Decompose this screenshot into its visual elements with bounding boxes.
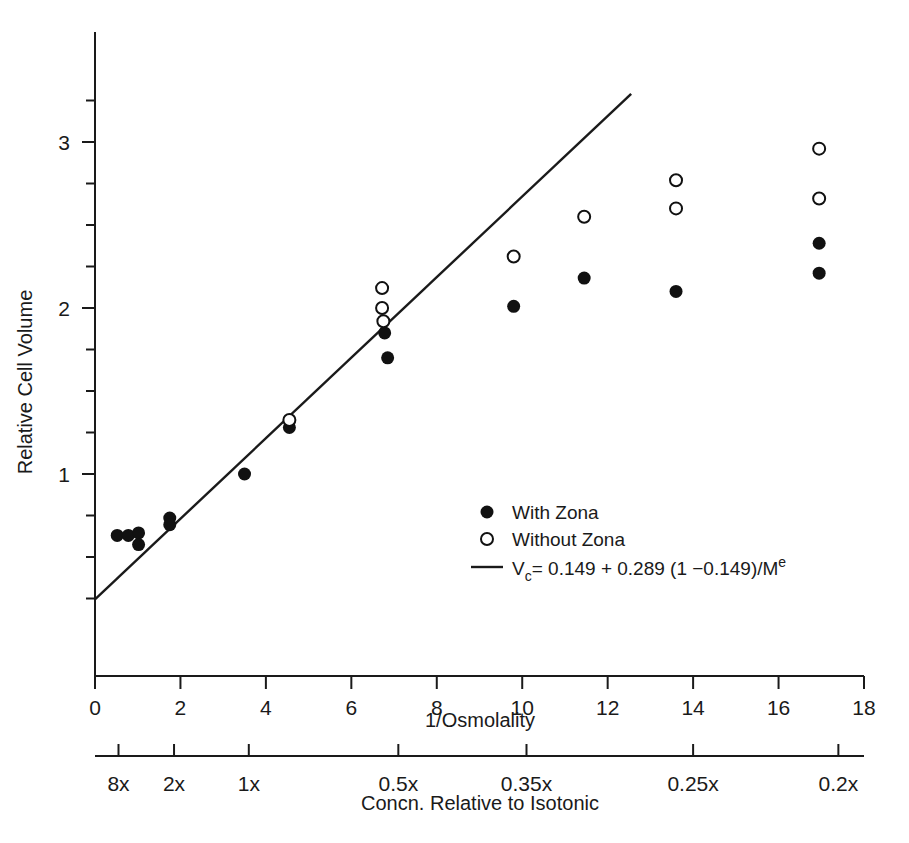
data-point <box>670 202 682 214</box>
secondary-axis-ticks <box>118 744 838 756</box>
data-point <box>238 468 251 481</box>
y-axis-tick-labels: 123 <box>58 131 70 486</box>
y-axis-title: Relative Cell Volume <box>14 290 36 475</box>
data-point <box>111 529 124 542</box>
legend-label-without-zona: Without Zona <box>512 529 625 550</box>
x-axis: 024681012141618 1/Osmolality <box>89 676 876 731</box>
data-point <box>813 237 826 250</box>
data-point <box>578 272 591 285</box>
data-point <box>378 326 391 339</box>
x-tick-label: 6 <box>345 696 357 719</box>
data-point <box>163 518 176 531</box>
legend-marker-filled-circle <box>481 506 494 519</box>
legend-label-equation: Vc= 0.149 + 0.289 (1 −0.149)/Me <box>512 554 786 584</box>
x-tick-label: 18 <box>852 696 875 719</box>
x-tick-label: 4 <box>260 696 272 719</box>
x-tick-label: 16 <box>767 696 790 719</box>
data-point <box>377 315 389 327</box>
x-tick-label: 12 <box>596 696 619 719</box>
secondary-tick-label: 0.2x <box>819 772 859 795</box>
x-tick-label: 2 <box>175 696 187 719</box>
data-point <box>376 282 388 294</box>
legend: With Zona Without Zona Vc= 0.149 + 0.289… <box>471 502 786 584</box>
y-axis: 123 Relative Cell Volume <box>14 32 95 676</box>
legend-label-with-zona: With Zona <box>512 502 599 523</box>
data-point <box>670 174 682 186</box>
series-without-zona-points <box>283 143 825 426</box>
chart-svg: 123 Relative Cell Volume 024681012141618… <box>0 0 909 843</box>
data-point <box>813 143 825 155</box>
x-tick-label: 14 <box>681 696 705 719</box>
secondary-tick-label: 2x <box>163 772 186 795</box>
data-point <box>381 351 394 364</box>
y-tick-label: 3 <box>58 131 70 154</box>
data-point <box>578 211 590 223</box>
legend-marker-open-circle <box>481 533 493 545</box>
secondary-x-axis: 8x2x1x0.5x0.35x0.25x0.2x Concn. Relative… <box>95 744 864 814</box>
x-axis-ticks <box>95 676 864 689</box>
data-point <box>132 538 145 551</box>
secondary-tick-label: 0.25x <box>667 772 719 795</box>
equation-lhs-symbol: V <box>512 558 525 579</box>
data-point <box>813 267 826 280</box>
y-tick-label: 1 <box>58 463 70 486</box>
series-with-zona-points <box>111 237 826 551</box>
secondary-tick-label: 8x <box>107 772 130 795</box>
equation-rhs-superscript: e <box>778 554 786 570</box>
data-point <box>507 300 520 313</box>
data-point <box>813 192 825 204</box>
data-point <box>376 302 388 314</box>
secondary-tick-label: 1x <box>238 772 261 795</box>
y-tick-label: 2 <box>58 297 70 320</box>
data-point <box>283 414 295 426</box>
data-point <box>670 285 683 298</box>
data-point <box>132 526 145 539</box>
equation-rhs: = 0.149 + 0.289 (1 −0.149)/M <box>532 558 779 579</box>
data-point <box>508 251 520 263</box>
x-axis-title: 1/Osmolality <box>425 709 535 731</box>
x-tick-label: 0 <box>89 696 101 719</box>
secondary-axis-title: Concn. Relative to Isotonic <box>361 792 599 814</box>
equation-lhs-subscript: c <box>525 568 532 584</box>
y-axis-ticks <box>82 101 95 599</box>
figure-container: 123 Relative Cell Volume 024681012141618… <box>0 0 909 843</box>
